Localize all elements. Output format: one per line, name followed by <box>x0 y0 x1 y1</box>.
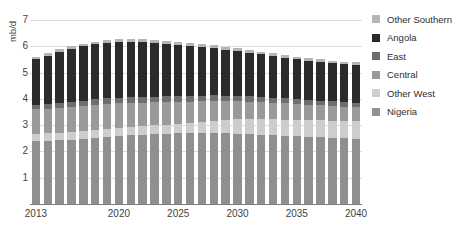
legend-swatch-icon <box>372 52 380 60</box>
bar-column <box>233 48 242 204</box>
x-axis-tick-label: 2040 <box>345 208 367 219</box>
bar-column <box>44 53 53 204</box>
bar-segment <box>67 107 76 132</box>
bar-segment <box>91 130 100 138</box>
bar-segment <box>115 136 124 204</box>
chart-legend: Other SouthernAngolaEastCentralOther Wes… <box>372 10 466 121</box>
legend-item-label: Central <box>387 69 418 80</box>
bar-segment <box>127 103 136 127</box>
bar-segment <box>281 120 290 136</box>
bar-segment <box>115 103 124 127</box>
legend-item-label: Other West <box>387 88 435 99</box>
bar-segment <box>198 101 207 122</box>
bar-segment <box>55 133 64 141</box>
bar-segment <box>340 107 349 121</box>
bar-segment <box>103 43 112 99</box>
plot-area: 1234567 201320202025203020352040 <box>30 20 362 204</box>
bar-segment <box>79 46 88 100</box>
bar-column <box>328 61 337 204</box>
bar-segment <box>174 124 183 133</box>
bar-column <box>127 39 136 204</box>
bar-column <box>150 40 159 204</box>
bar-segment <box>138 135 147 204</box>
bar-segment <box>316 137 325 204</box>
bar-column <box>55 49 64 204</box>
bar-segment <box>316 62 325 101</box>
bar-column <box>103 40 112 204</box>
bar-segment <box>91 44 100 99</box>
legend-item-label: Nigeria <box>387 106 417 117</box>
bar-segment <box>55 108 64 133</box>
bar-column <box>115 39 124 204</box>
bar-segment <box>198 122 207 133</box>
bar-segment <box>162 134 171 204</box>
bar-segment <box>91 105 100 130</box>
bar-segment <box>352 139 361 204</box>
legend-swatch-icon <box>372 89 380 97</box>
x-axis-tick-label: 2030 <box>226 208 248 219</box>
legend-item[interactable]: Other West <box>372 84 466 103</box>
bar-segment <box>316 105 325 120</box>
bar-series-container <box>30 20 362 204</box>
x-axis-tick-label: 2020 <box>108 208 130 219</box>
legend-item[interactable]: Angola <box>372 29 466 48</box>
bar-segment <box>340 138 349 204</box>
bar-segment <box>245 119 254 134</box>
y-axis-tick-label: 2 <box>0 146 28 156</box>
x-axis-tick-label: 2035 <box>286 208 308 219</box>
bar-column <box>174 42 183 204</box>
bar-segment <box>44 133 53 141</box>
bar-segment <box>340 64 349 102</box>
bar-segment <box>67 49 76 102</box>
legend-item[interactable]: Central <box>372 66 466 85</box>
bar-segment <box>67 132 76 140</box>
bar-segment <box>91 138 100 204</box>
x-axis-tick-label: 2013 <box>25 208 47 219</box>
bar-segment <box>257 102 266 119</box>
bar-segment <box>221 133 230 204</box>
bar-segment <box>32 109 41 133</box>
bar-segment <box>79 139 88 204</box>
bar-segment <box>127 135 136 204</box>
bar-segment <box>138 103 147 127</box>
bar-segment <box>233 134 242 204</box>
legend-item[interactable]: Other Southern <box>372 10 466 29</box>
bar-segment <box>304 105 313 120</box>
bar-segment <box>32 141 41 204</box>
bar-segment <box>210 133 219 204</box>
bar-segment <box>150 134 159 204</box>
bar-column <box>186 43 195 204</box>
bar-segment <box>127 127 136 135</box>
bar-segment <box>127 42 136 97</box>
bar-segment <box>269 119 278 135</box>
bar-segment <box>32 134 41 142</box>
bar-segment <box>150 43 159 96</box>
bar-column <box>293 57 302 204</box>
bar-column <box>281 55 290 204</box>
bar-column <box>67 46 76 204</box>
bar-segment <box>328 138 337 204</box>
bar-column <box>221 47 230 204</box>
bar-segment <box>162 125 171 134</box>
bar-segment <box>257 54 266 97</box>
bar-column <box>269 53 278 204</box>
bar-column <box>91 42 100 204</box>
y-axis-tick-label: 4 <box>0 94 28 104</box>
bar-segment <box>221 120 230 133</box>
bar-segment <box>269 56 278 98</box>
bar-segment <box>257 135 266 204</box>
bar-segment <box>210 121 219 133</box>
bar-segment <box>352 121 361 139</box>
bar-segment <box>352 107 361 121</box>
legend-item[interactable]: Nigeria <box>372 103 466 122</box>
bar-segment <box>245 102 254 120</box>
legend-item[interactable]: East <box>372 47 466 66</box>
bar-segment <box>328 121 337 138</box>
y-axis-tick-label: 3 <box>0 120 28 130</box>
y-axis-tick-label: 5 <box>0 68 28 78</box>
legend-item-label: Other Southern <box>387 14 452 25</box>
bar-segment <box>281 136 290 204</box>
legend-swatch-icon <box>372 71 380 79</box>
bar-column <box>352 62 361 204</box>
bar-segment <box>150 125 159 134</box>
